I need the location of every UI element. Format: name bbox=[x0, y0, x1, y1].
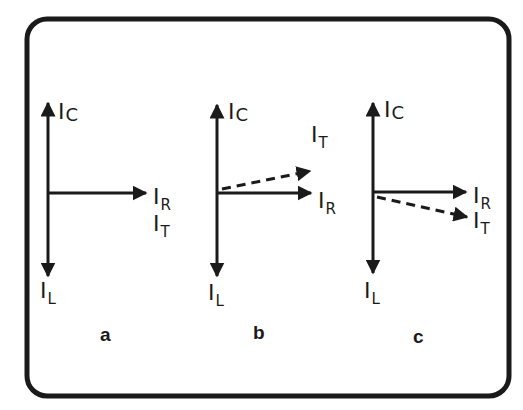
label-main: I bbox=[228, 99, 235, 124]
label-main: I bbox=[364, 278, 371, 303]
panel-c-label-il: IL bbox=[364, 280, 380, 302]
label-main: I bbox=[153, 184, 160, 209]
label-main: I bbox=[473, 183, 480, 208]
panel-c-it-vector-dashed bbox=[377, 197, 467, 217]
label-sub: T bbox=[161, 223, 170, 241]
label-main: I bbox=[311, 122, 318, 147]
label-main: I bbox=[208, 280, 215, 305]
panel-a-caption: a bbox=[100, 325, 111, 344]
label-sub: T bbox=[319, 134, 328, 152]
panel-c-label-ic: IC bbox=[384, 99, 404, 121]
label-sub: T bbox=[481, 220, 490, 238]
label-sub: L bbox=[216, 292, 224, 310]
panel-c-label-ir: IR bbox=[473, 185, 491, 207]
label-sub: C bbox=[236, 104, 249, 125]
label-sub: C bbox=[66, 104, 79, 125]
label-main: I bbox=[318, 188, 325, 213]
panel-c-phasors bbox=[373, 103, 467, 273]
panel-c-caption: c bbox=[413, 327, 424, 346]
panel-a-phasors bbox=[48, 103, 146, 276]
phasor-diagram-canvas bbox=[0, 0, 523, 410]
label-main: I bbox=[40, 278, 47, 303]
label-main: I bbox=[153, 211, 160, 236]
panel-b-label-ic: IC bbox=[228, 101, 248, 123]
panel-a-label-ir: IR bbox=[153, 186, 171, 208]
panel-c-label-it: IT bbox=[473, 210, 490, 232]
label-main: I bbox=[58, 99, 65, 124]
panel-b-label-ir: IR bbox=[318, 190, 336, 212]
panel-b-caption: b bbox=[253, 323, 265, 342]
label-main: I bbox=[384, 97, 391, 122]
panel-b-it-vector-dashed bbox=[222, 171, 310, 189]
panel-b-label-il: IL bbox=[208, 282, 224, 304]
label-sub: R bbox=[326, 200, 336, 218]
panel-b-phasors bbox=[217, 105, 311, 276]
panel-a-label-it: IT bbox=[153, 213, 170, 235]
label-main: I bbox=[473, 208, 480, 233]
label-sub: C bbox=[392, 102, 405, 123]
label-sub: L bbox=[372, 290, 380, 308]
panel-a-label-ic: IC bbox=[58, 101, 78, 123]
panel-b-label-it: IT bbox=[311, 124, 328, 146]
label-sub: R bbox=[161, 196, 171, 214]
label-sub: L bbox=[48, 290, 56, 308]
panel-a-label-il: IL bbox=[40, 280, 56, 302]
